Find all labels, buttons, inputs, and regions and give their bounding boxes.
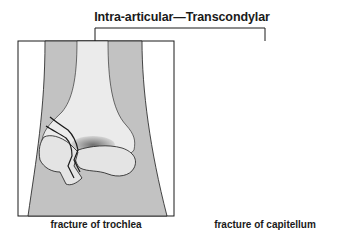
diagram-canvas [0, 0, 364, 242]
title-bracket [95, 28, 265, 41]
panel-trochlea [18, 41, 174, 216]
caption-trochlea: fracture of trochlea [18, 219, 174, 230]
caption-capitellum: fracture of capitellum [187, 219, 343, 230]
